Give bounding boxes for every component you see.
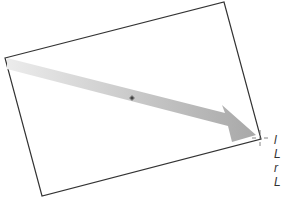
edge-text-line-3: r bbox=[274, 162, 278, 174]
edge-text-line-2: L bbox=[274, 148, 281, 160]
diagram-canvas bbox=[0, 0, 281, 206]
edge-text-line-4: L bbox=[274, 176, 281, 188]
edge-text-line-1: l bbox=[274, 134, 277, 146]
